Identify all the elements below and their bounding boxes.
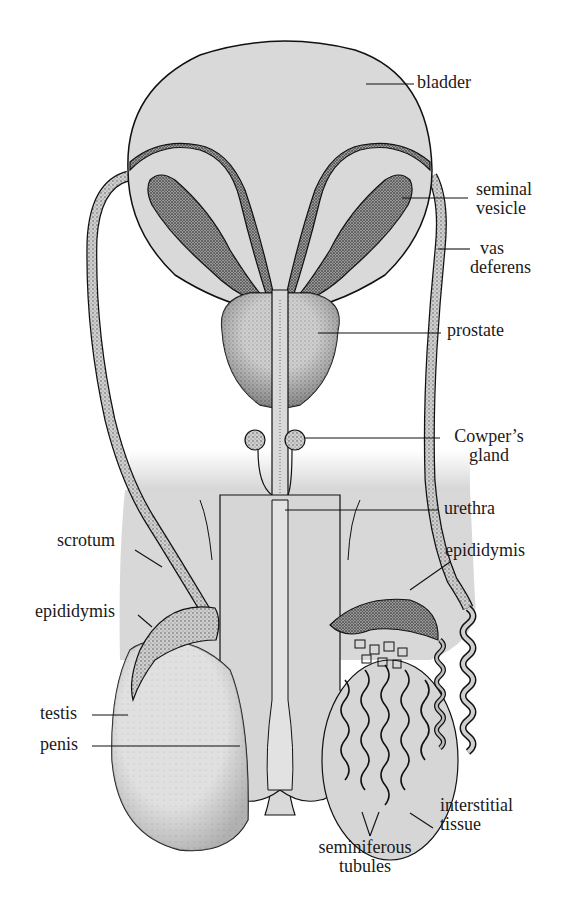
label-interstitial-tissue: interstitial tissue: [440, 796, 513, 834]
label-urethra: urethra: [444, 499, 495, 518]
label-vas-deferens-line1: vas: [476, 239, 531, 258]
reproductive-system-diagram: bladder seminal vesicle vas deferens pro…: [0, 0, 580, 901]
label-seminal-vesicle: seminal vesicle: [476, 180, 532, 218]
label-seminiferous-tubules: seminiferous tubules: [300, 838, 430, 876]
label-vas-deferens-line2: deferens: [470, 258, 531, 277]
label-cowpers-gland: Cowper’s gland: [443, 427, 535, 465]
label-penis: penis: [40, 735, 78, 754]
label-vas-deferens: vas deferens: [476, 239, 531, 277]
label-cowpers-gland-line2: gland: [443, 446, 535, 465]
label-cowpers-gland-line1: Cowper’s: [443, 427, 535, 446]
label-seminal-vesicle-line1: seminal: [476, 180, 532, 199]
label-seminiferous-tubules-line2: tubules: [300, 857, 430, 876]
label-seminiferous-tubules-line1: seminiferous: [300, 838, 430, 857]
label-prostate: prostate: [447, 321, 504, 340]
label-epididymis-right: epididymis: [445, 541, 525, 560]
label-interstitial-tissue-line1: interstitial: [440, 796, 513, 815]
label-scrotum: scrotum: [57, 531, 115, 550]
label-testis: testis: [40, 704, 77, 723]
bladder: [128, 41, 432, 312]
label-interstitial-tissue-line2: tissue: [440, 815, 513, 834]
label-seminal-vesicle-line2: vesicle: [476, 199, 532, 218]
label-bladder: bladder: [417, 73, 471, 92]
label-epididymis-left: epididymis: [35, 602, 115, 621]
